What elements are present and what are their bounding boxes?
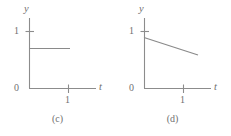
panel-c: y 1 0 1 t (c) <box>0 0 115 136</box>
panel-d-origin-label: 0 <box>129 83 134 93</box>
figure-container: y 1 0 1 t (c) y 1 0 1 t (d) <box>0 0 231 136</box>
panel-d-y-tick-label: 1 <box>129 26 134 36</box>
panel-d-x-axis-label: t <box>214 82 217 93</box>
panel-d-x-tick-label: 1 <box>180 95 185 105</box>
panel-d: y 1 0 1 t (d) <box>115 0 230 136</box>
panel-c-y-tick-label: 1 <box>14 26 19 36</box>
panel-c-y-axis-label: y <box>24 4 29 15</box>
panel-c-x-tick-label: 1 <box>65 95 70 105</box>
panel-d-caption: (d) <box>115 114 230 124</box>
panel-c-x-axis-label: t <box>99 82 102 93</box>
panel-c-caption: (c) <box>0 114 115 124</box>
panel-c-origin-label: 0 <box>14 83 19 93</box>
panel-d-y-axis-label: y <box>139 4 144 15</box>
panel-d-data-line <box>144 38 198 56</box>
